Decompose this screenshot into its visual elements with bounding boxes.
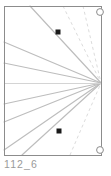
dashed-ray-upper-outer	[83, 6, 101, 83]
point-marker-upper	[56, 30, 61, 35]
ray-bottom-steep	[22, 83, 101, 155]
circle-marker-top-right	[97, 9, 104, 16]
perspective-diagram-canvas	[0, 0, 111, 176]
point-marker-lower	[57, 129, 62, 134]
dashed-ray-upper	[63, 6, 101, 83]
rays-group	[4, 6, 101, 155]
ray-upper-shallow	[4, 63, 101, 83]
point-markers-group	[56, 30, 62, 134]
caption-layer: 112_6	[0, 157, 111, 176]
figure-root: 112_6	[0, 0, 111, 176]
frame-rectangle	[5, 7, 102, 156]
ray-top-steep	[30, 6, 101, 83]
ray-upper-left-edge	[4, 42, 101, 83]
circle-marker-bottom-right	[97, 147, 104, 154]
figure-caption: 112_6	[4, 158, 38, 171]
